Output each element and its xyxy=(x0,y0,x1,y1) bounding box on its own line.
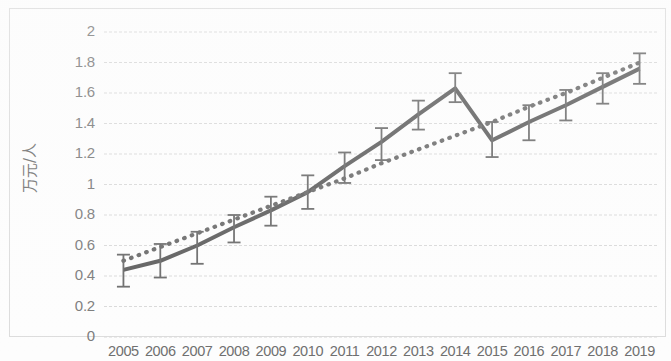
y-axis-tick-label: 0.2 xyxy=(35,297,95,314)
error-bar xyxy=(633,53,646,84)
chart-svg xyxy=(0,0,671,361)
y-axis-tick-label: 1.2 xyxy=(35,144,95,161)
y-axis-tick-label: 0 xyxy=(35,327,95,344)
y-axis-tick-label: 1 xyxy=(35,175,95,192)
y-axis-tick-label: 0.6 xyxy=(35,236,95,253)
chart-container: 万元/人 00.20.40.60.811.21.41.61.82 2005200… xyxy=(0,0,671,361)
y-axis-tick-label: 1.4 xyxy=(35,114,95,131)
y-axis-tick-label: 2 xyxy=(35,22,95,39)
series-line-0 xyxy=(123,69,639,270)
y-axis-tick-label: 0.8 xyxy=(35,205,95,222)
y-axis-tick-label: 1.6 xyxy=(35,83,95,100)
series-line-1 xyxy=(123,63,639,261)
error-bar xyxy=(412,101,425,130)
y-axis-tick-label: 0.4 xyxy=(35,266,95,283)
x-axis-tick-label: 2019 xyxy=(618,343,662,359)
y-axis-tick-label: 1.8 xyxy=(35,53,95,70)
